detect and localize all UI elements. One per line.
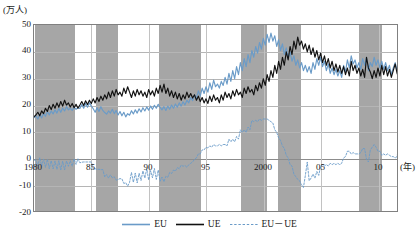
x-tick-label-1990: 90 [143, 163, 152, 172]
y-tick-label-40: 40 [2, 46, 31, 55]
legend-swatch-EUUE [230, 221, 258, 228]
series-line-EUUE [34, 119, 398, 187]
y-tick-label-50: 50 [2, 20, 31, 29]
x-axis-unit-label: (年) [400, 163, 415, 172]
legend-label: EU－UE [262, 219, 297, 229]
x-tick-label-1985: 85 [86, 163, 95, 172]
chart-legend: EUUEEU－UE [0, 214, 419, 234]
legend-label: EU [154, 219, 167, 229]
x-tick-label-2005: 05 [316, 163, 325, 172]
x-tick-label-1995: 95 [201, 163, 210, 172]
y-tick-label-10: 10 [2, 127, 31, 136]
chart-container: (万人) 50403020100-10-20 19808590952000051… [0, 0, 419, 235]
legend-swatch-UE [176, 221, 204, 228]
series-line-EU [34, 33, 398, 119]
data-series-layer [34, 25, 398, 212]
legend-item-EU[interactable]: EU [122, 219, 167, 229]
y-tick-label-20: 20 [2, 100, 31, 109]
legend-item-EUUE[interactable]: EU－UE [230, 219, 297, 229]
legend-label: UE [208, 219, 221, 229]
legend-item-UE[interactable]: UE [176, 219, 221, 229]
legend-swatch-EU [122, 221, 150, 228]
x-tick-label-2000: 2000 [254, 163, 272, 172]
y-axis-tick-labels: 50403020100-10-20 [0, 0, 31, 235]
y-tick-label--10: -10 [2, 181, 31, 190]
y-tick-label-30: 30 [2, 73, 31, 82]
plot-area [33, 24, 398, 212]
x-tick-label-1980: 1980 [24, 163, 42, 172]
x-tick-label-2010: 10 [373, 163, 382, 172]
